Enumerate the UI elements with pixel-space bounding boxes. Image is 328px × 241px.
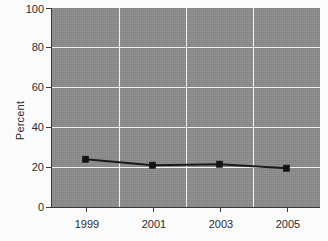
x-axis-tick-labels: 1999 2001 2003 2005: [0, 0, 328, 241]
x-tick-label-1999: 1999: [64, 218, 110, 230]
x-tick-label-2001: 2001: [131, 218, 177, 230]
x-tick-label-2005: 2005: [265, 218, 311, 230]
x-tick-label-2003: 2003: [198, 218, 244, 230]
line-chart: Percent 100 80 60 40 20 0: [0, 0, 328, 241]
